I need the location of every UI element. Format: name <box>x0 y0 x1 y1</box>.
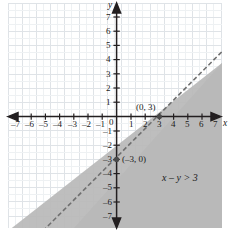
y-tick-label-6: 6 <box>106 27 111 36</box>
y-tick-label-4: 4 <box>106 55 111 64</box>
x-tick-label-3: 3 <box>157 120 162 129</box>
y-tick-label-neg7: –7 <box>103 212 112 221</box>
x-tick-label-neg7: –7 <box>11 120 20 129</box>
y-tick-label-5: 5 <box>106 41 111 50</box>
point-label-y-intercept: (–3, 0) <box>122 155 146 164</box>
y-tick-label-neg5: –5 <box>103 183 112 192</box>
x-tick-label-neg5: –5 <box>39 120 48 129</box>
y-tick-label-7: 7 <box>106 13 111 22</box>
x-tick-label-5: 5 <box>185 120 190 129</box>
x-tick-label-neg6: –6 <box>25 120 34 129</box>
x-tick-label-7: 7 <box>213 120 218 129</box>
x-tick-label-4: 4 <box>171 120 176 129</box>
x-axis-label: x <box>223 119 227 129</box>
point-marker-y-intercept <box>114 157 119 162</box>
y-tick-label-2: 2 <box>106 84 111 93</box>
x-tick-label-6: 6 <box>199 120 204 129</box>
y-tick-label-1: 1 <box>106 98 111 107</box>
coordinate-plane-svg <box>0 0 231 232</box>
x-tick-label-neg2: –2 <box>82 120 91 129</box>
y-tick-label-3: 3 <box>106 70 111 79</box>
y-axis-label: y <box>108 1 112 11</box>
point-label-x-intercept: (0, 3) <box>136 103 156 112</box>
x-tick-label-2: 2 <box>143 120 148 129</box>
y-tick-label-neg3: –3 <box>103 155 112 164</box>
inequality-graph-figure: –7 –6 –5 –4 –3 –2 –1 0 1 2 3 4 5 6 7 7 6… <box>0 0 231 232</box>
inequality-annotation: x – y > 3 <box>162 173 198 183</box>
x-tick-label-neg3: –3 <box>68 120 77 129</box>
y-axis-arrow-up <box>113 3 121 13</box>
y-tick-label-neg6: –6 <box>103 198 112 207</box>
y-tick-label-neg2: –2 <box>103 141 112 150</box>
y-tick-label-neg1: –1 <box>103 127 112 136</box>
y-tick-label-neg4: –4 <box>103 169 112 178</box>
x-tick-label-neg4: –4 <box>53 120 62 129</box>
x-tick-label-1: 1 <box>129 120 134 129</box>
